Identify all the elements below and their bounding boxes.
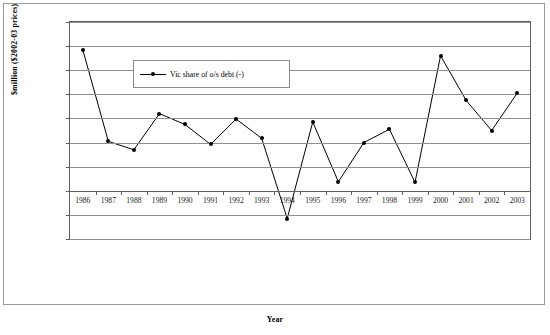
y-axis-tick-mark	[66, 94, 70, 95]
gridline	[70, 22, 530, 23]
gridline	[70, 143, 530, 144]
plot-inner	[70, 22, 530, 239]
y-axis-tick-mark	[66, 191, 70, 192]
x-axis-tick-mark	[147, 191, 148, 195]
data-point-marker	[209, 142, 213, 146]
x-axis-tick-mark	[326, 191, 327, 195]
gridline	[70, 94, 530, 95]
chart-container: $million ($2002-03 prices) Vic share of …	[0, 0, 550, 335]
y-axis-tick-mark	[66, 22, 70, 23]
x-axis-tick-mark	[402, 191, 403, 195]
x-axis-tick-mark	[351, 191, 352, 195]
gridline	[70, 167, 530, 168]
gridline	[70, 239, 530, 240]
y-axis-title: $million ($2002-03 prices)	[10, 4, 19, 95]
x-axis-tick-mark	[249, 191, 250, 195]
x-axis-tick-mark	[479, 191, 480, 195]
legend-box: Vic share of o/s debt (-)	[133, 60, 290, 88]
x-axis-tick-mark	[300, 191, 301, 195]
x-axis-title: Year	[0, 315, 550, 324]
legend-entry-vic-share: Vic share of o/s debt (-)	[140, 70, 244, 79]
x-axis-tick-label: 2003	[497, 196, 537, 205]
data-point-marker	[439, 54, 443, 58]
y-axis-tick-mark	[66, 239, 70, 240]
x-axis-tick-mark	[223, 191, 224, 195]
data-point-marker	[490, 129, 494, 133]
plot-area	[69, 21, 531, 240]
x-axis-tick-mark	[198, 191, 199, 195]
x-axis-tick-mark	[172, 191, 173, 195]
legend-line-sample	[140, 74, 166, 75]
legend-label: Vic share of o/s debt (-)	[170, 70, 244, 79]
data-point-marker	[311, 120, 315, 124]
legend-marker-icon	[151, 72, 155, 76]
data-point-marker	[81, 48, 85, 52]
gridline	[70, 118, 530, 119]
data-point-marker	[132, 148, 136, 152]
y-axis-tick-mark	[66, 118, 70, 119]
gridline	[70, 215, 530, 216]
y-axis-tick-mark	[66, 70, 70, 71]
x-axis-tick-mark	[96, 191, 97, 195]
x-axis-tick-mark	[377, 191, 378, 195]
y-axis-tick-mark	[66, 143, 70, 144]
series-line-path	[70, 22, 530, 239]
data-point-marker	[362, 141, 366, 145]
y-axis-tick-mark	[66, 46, 70, 47]
y-axis-tick-mark	[66, 167, 70, 168]
gridline	[70, 46, 530, 47]
y-axis-tick-mark	[66, 215, 70, 216]
x-axis-tick-mark	[121, 191, 122, 195]
data-point-marker	[285, 217, 289, 221]
x-axis-tick-mark	[274, 191, 275, 195]
x-axis-tick-mark	[504, 191, 505, 195]
x-axis-tick-mark	[453, 191, 454, 195]
x-axis-tick-mark	[428, 191, 429, 195]
